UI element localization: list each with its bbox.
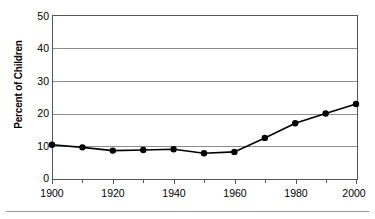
x-axis-tick-1970 [265, 179, 266, 183]
x-axis-tick-1930 [143, 179, 144, 183]
chart-figure: Percent of Children 50 40 30 20 10 0 190… [0, 0, 375, 219]
y-axis-tick-label-30: 30 [27, 76, 49, 86]
footer-divider [6, 211, 369, 212]
y-axis-tick-label-40: 40 [27, 43, 49, 53]
x-axis-tick-1910 [82, 179, 83, 183]
x-axis-tick-1950 [204, 179, 205, 183]
x-axis-tick-1990 [326, 179, 327, 183]
x-axis-tick-label-2000: 2000 [334, 188, 374, 199]
x-axis-tick-1960 [235, 179, 236, 184]
x-axis-tick-1940 [174, 179, 175, 184]
x-axis-tick-label-1920: 1920 [93, 188, 133, 199]
x-axis-tick-1900 [52, 179, 53, 184]
y-axis-tick-label-0: 0 [27, 173, 49, 183]
y-axis-tick-label-20: 20 [27, 108, 49, 118]
data-point-2000 [353, 101, 359, 107]
x-axis-tick-label-1940: 1940 [154, 188, 194, 199]
x-axis-tick-2000 [356, 179, 357, 184]
data-point-1930 [140, 147, 146, 153]
x-axis-tick-1980 [296, 179, 297, 184]
data-point-1900 [49, 142, 55, 148]
data-series-layer [52, 15, 357, 179]
x-axis-tick-label-1900: 1900 [32, 188, 72, 199]
series-line-percent-of-children [52, 104, 356, 153]
data-point-1960 [231, 149, 237, 155]
data-point-1940 [170, 146, 176, 152]
x-axis-tick-label-1980: 1980 [276, 188, 316, 199]
y-axis-tick-label-10: 10 [27, 141, 49, 151]
data-point-1980 [292, 120, 298, 126]
x-axis-tick-1920 [113, 179, 114, 184]
data-point-1970 [262, 135, 268, 141]
y-axis-tick-label-50: 50 [27, 11, 49, 21]
y-axis-title: Percent of Children [12, 0, 26, 194]
data-point-1920 [110, 147, 116, 153]
data-point-1950 [201, 150, 207, 156]
data-point-1910 [79, 144, 85, 150]
data-point-1990 [322, 110, 328, 116]
x-axis-tick-label-1960: 1960 [215, 188, 255, 199]
